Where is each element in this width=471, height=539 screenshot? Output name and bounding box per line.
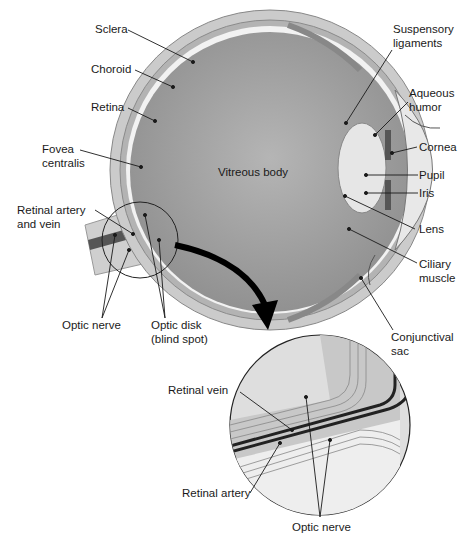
label-retinal-vein: Retinal vein	[168, 383, 228, 397]
eye-diagram	[0, 0, 471, 539]
label-suspensory-ligaments: Suspensory ligaments	[393, 22, 454, 50]
inset-magnification	[230, 335, 410, 515]
label-ciliary-muscle: Ciliary muscle	[419, 257, 455, 285]
label-retinal-artery: Retinal artery	[182, 486, 250, 500]
label-optic-nerve-inset: Optic nerve	[292, 520, 351, 534]
label-optic-disk: Optic disk (blind spot)	[151, 318, 208, 346]
label-retina: Retina	[91, 100, 124, 114]
label-aqueous-humor: Aqueous humor	[409, 86, 454, 114]
label-fovea-centralis: Fovea centralis	[42, 142, 85, 170]
label-pupil: Pupil	[419, 168, 445, 182]
label-lens: Lens	[419, 222, 444, 236]
label-iris: Iris	[419, 186, 434, 200]
label-choroid: Choroid	[91, 62, 131, 76]
label-retinal-artery-and-vein: Retinal artery and vein	[17, 203, 85, 231]
label-vitreous-body: Vitreous body	[218, 165, 288, 179]
label-cornea: Cornea	[419, 140, 457, 154]
lens-shape	[338, 123, 386, 213]
iris-shape	[385, 130, 391, 160]
label-sclera: Sclera	[95, 22, 128, 36]
label-conjunctival-sac: Conjunctival sac	[391, 330, 454, 358]
label-optic-nerve: Optic nerve	[62, 318, 121, 332]
